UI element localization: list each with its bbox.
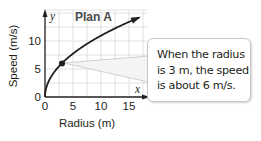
callout-line-2: is 3 m, the speed [157, 63, 244, 79]
highlight-point [59, 61, 65, 67]
x-tick-5: 5 [70, 100, 76, 112]
y-tick-5: 5 [35, 63, 41, 75]
x-tick-10: 10 [95, 100, 108, 112]
x-tick-15: 15 [123, 100, 136, 112]
y-axis-label: Speed (m/s) [7, 25, 19, 88]
callout-line-1: When the radius [157, 47, 244, 63]
x-tick-labels: 0 5 10 15 [42, 100, 136, 112]
y-axis-variable: y [49, 10, 56, 23]
callout-line-3: is about 6 m/s. [157, 78, 244, 94]
y-tick-0: 0 [35, 91, 41, 103]
y-tick-labels: 0 5 10 [28, 35, 41, 103]
x-axis-label: Radius (m) [59, 117, 115, 129]
chart-title: Plan A [75, 10, 112, 24]
x-tick-0: 0 [42, 100, 48, 112]
y-tick-10: 10 [28, 35, 41, 47]
curve-arrow-icon [131, 17, 141, 24]
annotation-callout: When the radius is 3 m, the speed is abo… [147, 38, 251, 102]
x-axis-variable: x [134, 83, 141, 95]
